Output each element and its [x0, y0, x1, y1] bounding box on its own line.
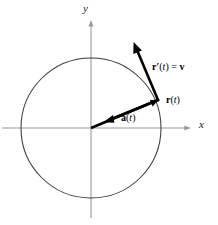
position-vector-label: r(t)	[166, 95, 180, 105]
accel-label-close-paren: )	[132, 112, 135, 123]
circular-motion-figure: y x r′(t) = v r(t) a(t)	[0, 0, 218, 225]
velocity-vector-label: r′(t) = v	[152, 62, 184, 72]
velocity-label-equals: =	[171, 61, 177, 72]
motion-point-marker	[156, 98, 159, 101]
velocity-label-close-paren: )	[165, 61, 168, 72]
velocity-label-value: v	[179, 61, 184, 72]
figure-canvas	[0, 0, 218, 225]
y-axis-label: y	[83, 3, 88, 14]
x-axis-label: x	[199, 119, 204, 130]
acceleration-vector-label: a(t)	[121, 113, 135, 123]
position-label-close-paren: )	[177, 94, 180, 105]
